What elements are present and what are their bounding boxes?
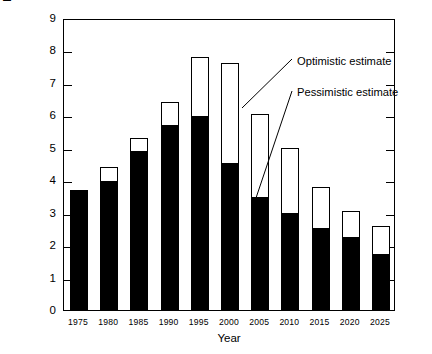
y-axis-tick-label: 7 bbox=[34, 78, 56, 90]
bar-pessimistic-2020 bbox=[343, 237, 359, 309]
bar-pessimistic-2010 bbox=[282, 213, 298, 309]
y-axis-tick-right bbox=[386, 150, 394, 151]
bar-1985 bbox=[130, 138, 148, 310]
bar-1990 bbox=[161, 102, 179, 310]
y-axis-tick bbox=[64, 52, 72, 53]
y-axis-tick-label: 1 bbox=[34, 273, 56, 285]
bar-optimistic-1975 bbox=[70, 190, 88, 310]
bar-optimistic-2000 bbox=[221, 63, 239, 310]
bar-pessimistic-2015 bbox=[313, 228, 329, 309]
bar-optimistic-1985 bbox=[130, 138, 148, 310]
bar-optimistic-1980 bbox=[100, 167, 118, 310]
bar-pessimistic-1990 bbox=[162, 125, 178, 309]
bar-optimistic-2020 bbox=[342, 211, 360, 310]
y-axis-tick-label: 8 bbox=[34, 45, 56, 57]
bar-optimistic-2010 bbox=[281, 148, 299, 310]
bar-pessimistic-1975 bbox=[71, 190, 87, 309]
bar-2005 bbox=[251, 114, 269, 310]
bar-pessimistic-1980 bbox=[101, 181, 117, 309]
y-axis-tick-label: 5 bbox=[34, 143, 56, 155]
annotation-optimistic-estimate: Optimistic estimate bbox=[297, 55, 392, 67]
bar-1995 bbox=[191, 57, 209, 310]
y-axis-tick bbox=[64, 85, 72, 86]
y-axis-tick-right bbox=[386, 117, 394, 118]
y-axis-title: Production rate of the OPEC countries (1… bbox=[0, 0, 12, 28]
bar-pessimistic-2025 bbox=[373, 254, 389, 309]
bar-pessimistic-2005 bbox=[252, 197, 268, 309]
bar-pessimistic-1995 bbox=[192, 116, 208, 309]
y-axis-tick-label: 6 bbox=[34, 110, 56, 122]
chart-figure: Production rate of the OPEC countries (1… bbox=[0, 0, 432, 354]
y-axis-tick-label: 3 bbox=[34, 208, 56, 220]
bar-optimistic-1990 bbox=[161, 102, 179, 310]
bar-optimistic-2025 bbox=[372, 226, 390, 310]
bar-optimistic-1995 bbox=[191, 57, 209, 310]
y-axis-title-prefix: Production rate of the OPEC countries (1… bbox=[2, 0, 13, 2]
bar-1980 bbox=[100, 167, 118, 310]
bar-optimistic-2015 bbox=[312, 187, 330, 310]
y-axis-tick-right bbox=[386, 215, 394, 216]
bar-1975 bbox=[70, 190, 88, 310]
bar-pessimistic-2000 bbox=[222, 163, 238, 309]
bar-pessimistic-1985 bbox=[131, 151, 147, 309]
y-axis-tick bbox=[64, 117, 72, 118]
y-axis-tick-right bbox=[386, 52, 394, 53]
y-axis-tick bbox=[64, 182, 72, 183]
bar-2015 bbox=[312, 187, 330, 310]
bar-2010 bbox=[281, 148, 299, 310]
bar-2020 bbox=[342, 211, 360, 310]
y-axis-tick bbox=[64, 150, 72, 151]
y-axis-tick-label: 9 bbox=[34, 13, 56, 25]
x-axis-title: Year bbox=[63, 332, 395, 344]
bar-2000 bbox=[221, 63, 239, 310]
y-axis-tick-label: 0 bbox=[34, 305, 56, 317]
y-axis-tick-label: 4 bbox=[34, 175, 56, 187]
y-axis-tick-right bbox=[386, 182, 394, 183]
bar-2025 bbox=[372, 226, 390, 310]
y-axis-tick-label: 2 bbox=[34, 240, 56, 252]
bar-optimistic-2005 bbox=[251, 114, 269, 310]
annotation-pessimistic-estimate: Pessimistic estimate bbox=[297, 86, 398, 98]
x-axis-tick-label: 2025 bbox=[358, 318, 402, 327]
